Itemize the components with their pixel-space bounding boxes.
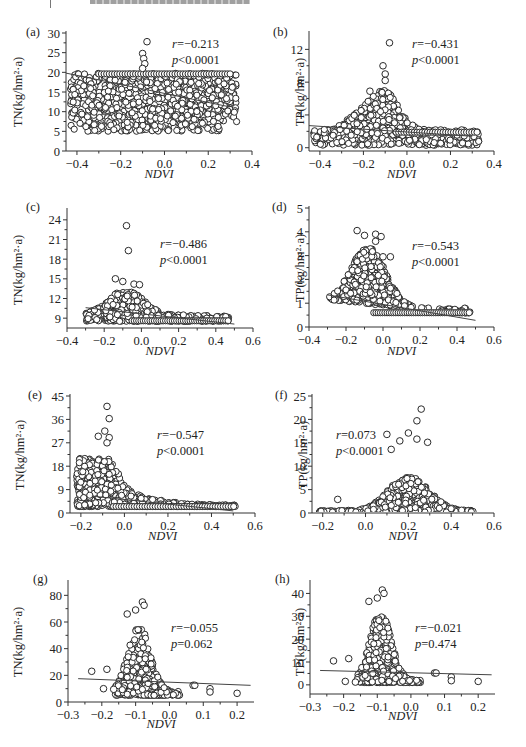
y-axis-label: TP(kg/hm²·a) xyxy=(293,58,307,126)
panel-label: (d) xyxy=(272,200,287,214)
data-point xyxy=(161,685,167,691)
data-point xyxy=(421,497,427,503)
scatter-panel-g: −0.3−0.2−0.10.00.10.2020406080(g)TN(kg/h… xyxy=(11,572,254,731)
data-point xyxy=(108,488,114,494)
data-point xyxy=(166,86,172,92)
data-point xyxy=(317,141,323,147)
data-point xyxy=(85,316,91,322)
x-tick-label: 0.6 xyxy=(486,333,502,347)
outlier-point xyxy=(367,88,374,95)
outlier-point xyxy=(106,415,113,422)
data-point xyxy=(416,142,422,148)
data-point xyxy=(81,83,87,89)
x-tick-label: −0.4 xyxy=(66,157,89,171)
data-point xyxy=(94,487,100,493)
outlier-point xyxy=(380,253,387,260)
data-point xyxy=(379,278,385,284)
data-point xyxy=(196,80,202,86)
outlier-point xyxy=(387,253,394,260)
x-tick-label: −0.1 xyxy=(366,700,389,714)
data-point xyxy=(91,122,97,128)
data-point xyxy=(431,140,437,146)
panel-label: (g) xyxy=(33,572,48,586)
data-point xyxy=(229,84,235,90)
data-point xyxy=(95,472,101,478)
data-point xyxy=(387,285,393,291)
outlier-point xyxy=(104,403,111,410)
x-tick-label: −0.2 xyxy=(311,519,334,533)
data-point xyxy=(381,629,387,635)
data-point xyxy=(95,457,101,463)
data-point xyxy=(92,478,98,484)
outlier-point xyxy=(414,418,421,425)
data-point xyxy=(363,664,369,670)
data-point xyxy=(191,116,197,122)
data-point xyxy=(147,98,153,104)
y-tick-label: 15 xyxy=(49,272,62,286)
y-tick-label: 18 xyxy=(52,460,65,474)
data-point xyxy=(70,99,76,105)
data-point xyxy=(155,96,161,102)
correlation-r: r=−0.431 xyxy=(412,37,459,51)
data-point xyxy=(404,120,410,126)
x-tick-label: −0.4 xyxy=(309,157,332,171)
data-point xyxy=(102,104,108,110)
data-point xyxy=(105,88,111,94)
data-point xyxy=(414,677,420,683)
data-point xyxy=(195,128,201,134)
data-point xyxy=(156,106,162,112)
data-points xyxy=(88,599,240,699)
data-point xyxy=(124,310,130,316)
y-tick-label: 45 xyxy=(52,390,65,404)
data-point xyxy=(448,506,454,512)
y-tick-label: 60 xyxy=(50,616,63,630)
data-point xyxy=(105,94,111,100)
figure-canvas: −0.4−0.20.00.20.4051015202530(a)TN(kg/hm… xyxy=(0,0,526,747)
data-point xyxy=(78,479,84,485)
outlier-point xyxy=(207,689,214,696)
x-tick-label: 0.2 xyxy=(229,708,245,722)
data-point xyxy=(151,692,157,698)
data-point xyxy=(206,87,212,93)
outlier-point xyxy=(418,406,425,413)
x-axis-label: NDVI xyxy=(386,344,417,358)
data-point xyxy=(155,674,161,680)
scatter-panel-e: −0.20.00.20.40.60918273645(e)TN(kg/hm²·a… xyxy=(13,388,263,543)
x-tick-label: 0.2 xyxy=(470,700,486,714)
data-point xyxy=(103,308,109,314)
data-point xyxy=(227,71,233,77)
p-value: p<0.0001 xyxy=(156,444,205,458)
outlier-point xyxy=(382,77,389,84)
data-point xyxy=(184,112,190,118)
data-point xyxy=(134,298,140,304)
data-point xyxy=(412,505,418,511)
outlier-point xyxy=(330,658,337,665)
y-axis-label: TP(kg/hm²·a) xyxy=(293,608,307,676)
outlier-point xyxy=(475,678,482,685)
outlier-point xyxy=(354,227,361,234)
data-point xyxy=(407,677,413,683)
y-tick-label: 24 xyxy=(49,213,62,227)
data-point xyxy=(124,667,130,673)
y-tick-label: 0 xyxy=(298,678,304,692)
data-point xyxy=(126,90,132,96)
data-point xyxy=(90,93,96,99)
outlier-point xyxy=(405,430,412,437)
data-point xyxy=(115,485,121,491)
data-point xyxy=(397,115,403,121)
data-point xyxy=(99,479,105,485)
data-point xyxy=(113,95,119,101)
data-point xyxy=(189,124,195,130)
y-axis-label: TN(kg/hm²·a) xyxy=(11,235,25,305)
data-point xyxy=(373,663,379,669)
data-point xyxy=(388,502,394,508)
data-point xyxy=(466,310,472,316)
data-point xyxy=(142,656,148,662)
data-point xyxy=(176,89,182,95)
data-point xyxy=(84,114,90,120)
outlier-point xyxy=(381,590,388,597)
data-point xyxy=(114,105,120,111)
outlier-point xyxy=(352,679,359,686)
data-point xyxy=(91,307,97,313)
data-point xyxy=(125,654,131,660)
